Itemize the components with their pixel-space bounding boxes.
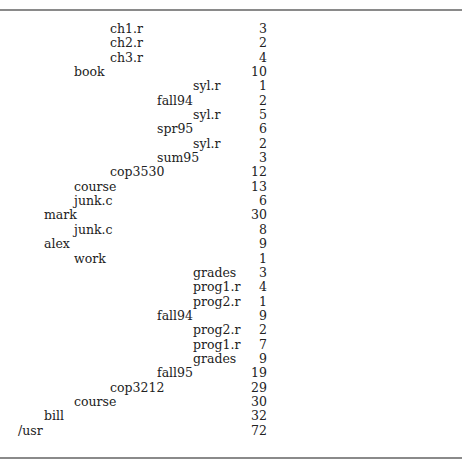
entry-name: fall94: [157, 94, 193, 108]
entry-size: 2: [259, 137, 267, 151]
entry-name: prog1.r: [193, 280, 240, 294]
listing-row: alex9: [0, 237, 462, 251]
listing-row: junk.c6: [0, 194, 462, 208]
entry-size: 4: [259, 51, 267, 65]
listing-row: grades3: [0, 266, 462, 280]
entry-name: mark: [44, 208, 77, 222]
directory-size-listing: ch1.r3ch2.r2ch3.r4book10syl.r1fall942syl…: [0, 22, 462, 438]
listing-row: junk.c8: [0, 223, 462, 237]
entry-size: 1: [259, 79, 267, 93]
entry-size: 9: [259, 352, 267, 366]
entry-size: 72: [251, 424, 267, 438]
entry-name: cop3212: [110, 381, 164, 395]
entry-name: cop3530: [110, 165, 164, 179]
entry-name: book: [74, 65, 105, 79]
entry-name: ch1.r: [110, 22, 143, 36]
listing-row: /usr72: [0, 424, 462, 438]
listing-row: prog2.r1: [0, 295, 462, 309]
listing-row: syl.r2: [0, 137, 462, 151]
entry-size: 8: [259, 223, 267, 237]
entry-size: 13: [251, 180, 267, 194]
entry-name: alex: [44, 237, 70, 251]
listing-row: fall949: [0, 309, 462, 323]
listing-row: work1: [0, 252, 462, 266]
listing-row: fall942: [0, 94, 462, 108]
entry-size: 9: [259, 237, 267, 251]
top-rule: [0, 9, 462, 11]
listing-row: course30: [0, 395, 462, 409]
listing-row: course13: [0, 180, 462, 194]
listing-row: mark30: [0, 208, 462, 222]
entry-name: syl.r: [193, 137, 220, 151]
entry-size: 1: [259, 252, 267, 266]
entry-name: work: [74, 252, 106, 266]
listing-row: prog2.r2: [0, 323, 462, 337]
entry-size: 2: [259, 323, 267, 337]
entry-name: prog2.r: [193, 295, 240, 309]
bottom-rule: [0, 457, 462, 459]
entry-size: 3: [259, 151, 267, 165]
entry-name: syl.r: [193, 108, 220, 122]
listing-row: ch2.r2: [0, 36, 462, 50]
entry-name: ch2.r: [110, 36, 143, 50]
entry-size: 19: [251, 366, 267, 380]
entry-size: 2: [259, 94, 267, 108]
listing-row: cop353012: [0, 165, 462, 179]
listing-row: ch1.r3: [0, 22, 462, 36]
entry-size: 32: [251, 409, 267, 423]
listing-row: cop321229: [0, 381, 462, 395]
listing-row: bill32: [0, 409, 462, 423]
entry-name: prog2.r: [193, 323, 240, 337]
listing-row: spr956: [0, 122, 462, 136]
entry-size: 6: [259, 194, 267, 208]
entry-size: 10: [251, 65, 267, 79]
entry-name: junk.c: [74, 223, 113, 237]
entry-size: 12: [251, 165, 267, 179]
listing-row: fall9519: [0, 366, 462, 380]
listing-row: prog1.r4: [0, 280, 462, 294]
entry-size: 3: [259, 22, 267, 36]
listing-row: syl.r5: [0, 108, 462, 122]
entry-name: fall95: [157, 366, 193, 380]
listing-row: syl.r1: [0, 79, 462, 93]
entry-name: ch3.r: [110, 51, 143, 65]
entry-size: 30: [251, 208, 267, 222]
listing-row: book10: [0, 65, 462, 79]
listing-row: grades9: [0, 352, 462, 366]
listing-row: ch3.r4: [0, 51, 462, 65]
entry-name: syl.r: [193, 79, 220, 93]
entry-size: 30: [251, 395, 267, 409]
entry-name: spr95: [157, 122, 193, 136]
entry-size: 9: [259, 309, 267, 323]
listing-row: prog1.r7: [0, 338, 462, 352]
entry-name: fall94: [157, 309, 193, 323]
entry-size: 2: [259, 36, 267, 50]
entry-size: 1: [259, 295, 267, 309]
entry-size: 5: [259, 108, 267, 122]
entry-size: 4: [259, 280, 267, 294]
entry-name: /usr: [18, 424, 43, 438]
entry-size: 29: [251, 381, 267, 395]
entry-name: grades: [193, 352, 236, 366]
entry-size: 3: [259, 266, 267, 280]
entry-name: grades: [193, 266, 236, 280]
entry-name: course: [74, 180, 116, 194]
entry-name: junk.c: [74, 194, 113, 208]
listing-row: sum953: [0, 151, 462, 165]
entry-name: prog1.r: [193, 338, 240, 352]
entry-name: sum95: [157, 151, 199, 165]
entry-name: bill: [44, 409, 64, 423]
entry-size: 7: [259, 338, 267, 352]
entry-name: course: [74, 395, 116, 409]
entry-size: 6: [259, 122, 267, 136]
